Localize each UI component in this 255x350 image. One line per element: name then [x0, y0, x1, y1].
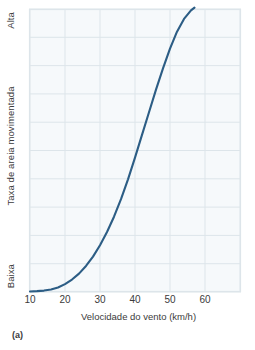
plot-area: [29, 9, 241, 292]
x-axis-tick-10: 10: [24, 294, 35, 305]
x-axis-tick-20: 20: [59, 294, 70, 305]
y-axis-title: Taxa de areia movimentada: [5, 86, 16, 205]
x-axis-tick-30: 30: [94, 294, 105, 305]
y-axis-bottom-label: Baixa: [5, 264, 16, 288]
figure-caption: (a): [12, 330, 23, 340]
x-axis-tick-40: 40: [129, 294, 140, 305]
data-curve: [29, 9, 241, 292]
y-axis-zone: Alta Taxa de areia movimentada Baixa: [0, 0, 29, 292]
figure-container: Alta Taxa de areia movimentada Baixa 102…: [0, 0, 255, 350]
x-axis-tick-labels: 102030405060: [0, 294, 255, 310]
x-axis-tick-50: 50: [164, 294, 175, 305]
x-axis-tick-60: 60: [199, 294, 210, 305]
x-axis-title: Velocidade do vento (km/h): [0, 311, 255, 322]
y-axis-top-label: Alta: [5, 12, 16, 29]
